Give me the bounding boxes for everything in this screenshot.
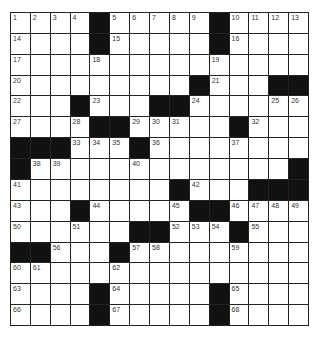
crossword-cell[interactable] [190,55,209,75]
crossword-cell[interactable] [150,34,169,54]
crossword-cell[interactable] [190,138,209,158]
crossword-cell[interactable] [269,284,288,304]
crossword-cell[interactable] [71,263,90,283]
crossword-cell[interactable] [289,222,308,242]
crossword-cell[interactable] [210,159,229,179]
crossword-cell[interactable] [190,284,209,304]
crossword-cell[interactable] [110,180,129,200]
crossword-cell[interactable] [230,180,249,200]
crossword-cell[interactable]: 5 [110,13,129,33]
crossword-cell[interactable] [249,76,268,96]
crossword-cell[interactable] [289,284,308,304]
crossword-cell[interactable] [150,55,169,75]
crossword-cell[interactable] [210,117,229,137]
crossword-cell[interactable] [130,263,149,283]
crossword-cell[interactable] [150,284,169,304]
crossword-cell[interactable] [249,159,268,179]
crossword-cell[interactable] [110,159,129,179]
crossword-cell[interactable] [31,117,50,137]
crossword-cell[interactable] [31,201,50,221]
crossword-cell[interactable] [230,263,249,283]
crossword-cell[interactable] [90,222,109,242]
crossword-cell[interactable]: 24 [190,96,209,116]
crossword-cell[interactable]: 66 [11,305,30,325]
crossword-cell[interactable] [71,305,90,325]
crossword-cell[interactable]: 28 [71,117,90,137]
crossword-cell[interactable]: 65 [230,284,249,304]
crossword-cell[interactable]: 61 [31,263,50,283]
crossword-cell[interactable]: 36 [150,138,169,158]
crossword-cell[interactable]: 6 [130,13,149,33]
crossword-cell[interactable]: 68 [230,305,249,325]
crossword-cell[interactable] [90,243,109,263]
crossword-cell[interactable]: 18 [90,55,109,75]
crossword-cell[interactable]: 23 [90,96,109,116]
crossword-cell[interactable]: 21 [210,76,229,96]
crossword-cell[interactable] [110,76,129,96]
crossword-cell[interactable]: 50 [11,222,30,242]
crossword-cell[interactable] [249,55,268,75]
crossword-cell[interactable] [51,201,70,221]
crossword-cell[interactable] [269,263,288,283]
crossword-cell[interactable] [249,284,268,304]
crossword-cell[interactable]: 2 [31,13,50,33]
crossword-cell[interactable]: 59 [230,243,249,263]
crossword-cell[interactable] [210,243,229,263]
crossword-cell[interactable] [210,96,229,116]
crossword-cell[interactable]: 46 [230,201,249,221]
crossword-cell[interactable] [51,180,70,200]
crossword-cell[interactable] [249,263,268,283]
crossword-cell[interactable] [130,305,149,325]
crossword-cell[interactable]: 32 [249,117,268,137]
crossword-cell[interactable]: 41 [11,180,30,200]
crossword-cell[interactable] [150,76,169,96]
crossword-cell[interactable] [249,138,268,158]
crossword-cell[interactable]: 1 [11,13,30,33]
crossword-cell[interactable] [150,180,169,200]
crossword-cell[interactable]: 12 [269,13,288,33]
crossword-cell[interactable] [31,305,50,325]
crossword-cell[interactable] [190,34,209,54]
crossword-cell[interactable]: 34 [90,138,109,158]
crossword-cell[interactable] [130,55,149,75]
crossword-cell[interactable]: 54 [210,222,229,242]
crossword-cell[interactable] [269,117,288,137]
crossword-cell[interactable] [289,34,308,54]
crossword-cell[interactable] [269,243,288,263]
crossword-cell[interactable]: 43 [11,201,30,221]
crossword-cell[interactable]: 27 [11,117,30,137]
crossword-cell[interactable] [289,117,308,137]
crossword-cell[interactable] [130,201,149,221]
crossword-cell[interactable] [71,243,90,263]
crossword-cell[interactable] [71,55,90,75]
crossword-cell[interactable]: 58 [150,243,169,263]
crossword-cell[interactable] [170,305,189,325]
crossword-cell[interactable]: 8 [170,13,189,33]
crossword-cell[interactable] [269,34,288,54]
crossword-cell[interactable] [269,55,288,75]
crossword-cell[interactable]: 45 [170,201,189,221]
crossword-cell[interactable] [269,159,288,179]
crossword-cell[interactable] [249,243,268,263]
crossword-cell[interactable]: 51 [71,222,90,242]
crossword-cell[interactable]: 29 [130,117,149,137]
crossword-cell[interactable]: 44 [90,201,109,221]
crossword-cell[interactable] [71,284,90,304]
crossword-cell[interactable] [90,263,109,283]
crossword-cell[interactable] [51,96,70,116]
crossword-cell[interactable] [31,222,50,242]
crossword-cell[interactable] [230,76,249,96]
crossword-cell[interactable] [130,34,149,54]
crossword-cell[interactable] [110,201,129,221]
crossword-cell[interactable] [170,55,189,75]
crossword-cell[interactable]: 38 [31,159,50,179]
crossword-cell[interactable] [130,96,149,116]
crossword-cell[interactable] [230,55,249,75]
crossword-cell[interactable] [51,55,70,75]
crossword-cell[interactable]: 10 [230,13,249,33]
crossword-cell[interactable] [130,284,149,304]
crossword-cell[interactable]: 60 [11,263,30,283]
crossword-cell[interactable] [51,76,70,96]
crossword-cell[interactable] [31,284,50,304]
crossword-cell[interactable] [289,305,308,325]
